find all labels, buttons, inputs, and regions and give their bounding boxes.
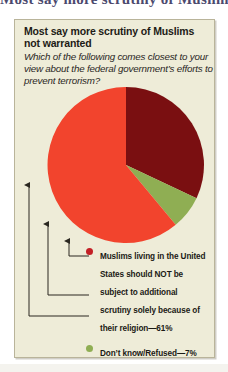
page-bottom-edge <box>0 364 228 372</box>
legend-dot-dont-know <box>86 345 93 352</box>
legend-label-dont-know: Don’t know/Refused—7% <box>100 349 197 358</box>
legend-item-not-subject[interactable]: Muslims living in the United States shou… <box>86 245 210 335</box>
chart-title: Most say more scrutiny of Muslims not wa… <box>24 25 210 49</box>
legend-dot-not-subject <box>86 248 93 255</box>
page-top-text-fragment: Most say more scrutiny of Muslims not wa… <box>0 0 228 11</box>
legend-item-dont-know[interactable]: Don’t know/Refused—7% <box>86 342 210 358</box>
pie-slices <box>48 87 204 243</box>
pie-chart <box>36 85 215 245</box>
chart-subtitle: Which of the following comes closest to … <box>24 51 214 87</box>
legend-label-not-subject: Muslims living in the United States shou… <box>100 252 205 333</box>
legend: Muslims living in the United States shou… <box>86 245 210 358</box>
chart-card: Most say more scrutiny of Muslims not wa… <box>14 19 215 358</box>
